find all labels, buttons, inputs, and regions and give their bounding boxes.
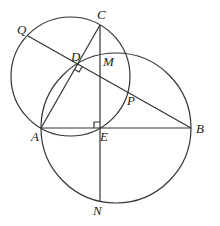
label-p: P [126, 93, 135, 108]
label-c: C [97, 7, 106, 22]
label-n: N [92, 203, 103, 218]
label-d: D [70, 49, 81, 64]
segment-qb [28, 36, 191, 128]
segment-ac [41, 25, 100, 128]
right-angle-mark-e [94, 122, 100, 128]
label-m: M [102, 54, 115, 69]
label-e: E [99, 129, 108, 144]
geometry-diagram: C Q D M P A E B N [0, 0, 220, 226]
label-q: Q [17, 22, 27, 37]
label-b: B [196, 121, 204, 136]
label-a: A [30, 129, 39, 144]
